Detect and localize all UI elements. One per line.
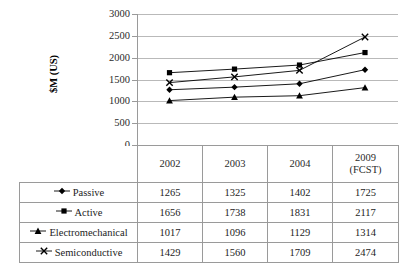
y-axis-tick-label: 2000 <box>88 52 130 63</box>
series-label-text: Active <box>75 208 103 219</box>
series-label-text: Electromechanical <box>49 228 127 239</box>
table-row-label-electromechanical: Electromechanical <box>20 223 138 243</box>
table-cell: 1265 <box>138 183 203 203</box>
series-passive <box>166 66 368 92</box>
table-cell: 1709 <box>268 243 333 263</box>
legend-marker-diamond-icon <box>53 186 71 196</box>
y-axis-tick-label: 500 <box>88 117 130 128</box>
table-cell: 1096 <box>203 223 268 243</box>
table-column-header-2003: 2003 <box>203 146 268 183</box>
series-lines <box>137 14 398 145</box>
table-cell: 2474 <box>333 243 399 263</box>
y-axis-tick-label: 1500 <box>88 74 130 85</box>
legend-marker-triangle-icon <box>29 226 47 236</box>
table-body: Passive1265132514021725Active16561738183… <box>20 183 399 263</box>
table-column-header-2009: 2009(FCST) <box>333 146 399 183</box>
table-cell: 1314 <box>333 223 399 243</box>
table-cell: 2117 <box>333 203 399 223</box>
table-cell: 1402 <box>268 183 333 203</box>
plot-area <box>137 14 398 145</box>
legend-marker-square-icon <box>55 206 73 216</box>
y-axis-tick-label: 1000 <box>88 95 130 106</box>
data-table: 2002200320042009(FCST) Passive1265132514… <box>19 145 398 263</box>
table-cell: 1325 <box>203 183 268 203</box>
series-label-text: Passive <box>73 188 105 199</box>
table-cell: 1017 <box>138 223 203 243</box>
legend-marker-cross-icon <box>35 246 53 256</box>
y-axis-tick-label: 3000 <box>88 8 130 19</box>
header-line-1: 2003 <box>225 158 246 169</box>
table-column-header-2002: 2002 <box>138 146 203 183</box>
table-cell: 1831 <box>268 203 333 223</box>
table-row-label-semiconductive: Semiconductive <box>20 243 138 263</box>
table-column-header-2004: 2004 <box>268 146 333 183</box>
table-header-row: 2002200320042009(FCST) <box>20 146 399 183</box>
series-active <box>167 50 368 75</box>
y-axis-tick-label: 2500 <box>88 30 130 41</box>
table-cell: 1738 <box>203 203 268 223</box>
data-table-element: 2002200320042009(FCST) Passive1265132514… <box>19 145 399 263</box>
table-cell: 1725 <box>333 183 399 203</box>
table-cell: 1429 <box>138 243 203 263</box>
table-row-label-active: Active <box>20 203 138 223</box>
header-line-1: 2002 <box>160 158 181 169</box>
header-line-1: 2009 <box>355 152 376 163</box>
table-cell: 1560 <box>203 243 268 263</box>
table-row-label-passive: Passive <box>20 183 138 203</box>
table-row: Active1656173818312117 <box>20 203 399 223</box>
header-line-2: (FCST) <box>333 164 398 176</box>
table-corner-cell <box>20 146 138 183</box>
table-row: Passive1265132514021725 <box>20 183 399 203</box>
y-axis-title: $M (US) <box>48 14 66 134</box>
table-row: Electromechanical1017109611291314 <box>20 223 399 243</box>
table-cell: 1656 <box>138 203 203 223</box>
series-electromechanical <box>166 84 368 103</box>
series-label-text: Semiconductive <box>55 248 123 259</box>
line-chart: $M (US) 300025002000150010005000 <box>0 0 410 150</box>
table-row: Semiconductive1429156017092474 <box>20 243 399 263</box>
table-cell: 1129 <box>268 223 333 243</box>
series-semiconductive <box>166 34 368 86</box>
chart-with-data-table: $M (US) 300025002000150010005000 2002200… <box>0 0 410 276</box>
header-line-1: 2004 <box>290 158 311 169</box>
